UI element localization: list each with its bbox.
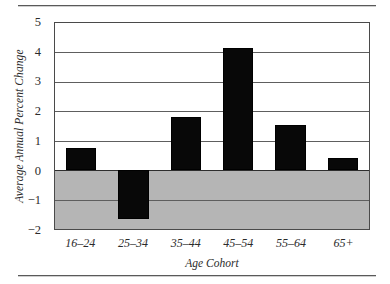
x-axis-title: Age Cohort (54, 257, 370, 269)
x-axis-tick-labels: 16–2425–3435–4445–5455–6465+ (54, 236, 370, 254)
x-tick-label: 25–34 (118, 236, 148, 251)
figure-rule-bottom (18, 275, 376, 276)
y-axis-tick-labels: 543210−1−2 (0, 22, 48, 230)
y-tick-label: 5 (35, 16, 41, 29)
bar-16-24 (66, 148, 96, 170)
x-tick-label: 55–64 (276, 236, 306, 251)
y-tick-label: 4 (35, 45, 41, 58)
y-tick-label: 1 (35, 135, 41, 148)
y-tick-label: 0 (35, 164, 41, 177)
plot-frame (54, 22, 370, 230)
y-tick-label: −2 (28, 224, 41, 237)
y-tick-label: −1 (28, 194, 41, 207)
bar-series (55, 23, 369, 229)
bar-35-44 (171, 117, 201, 170)
x-tick-label: 35–44 (171, 236, 201, 251)
x-tick-label: 65+ (334, 236, 354, 251)
bar-55-64 (275, 125, 305, 171)
bar-25-34 (118, 170, 148, 219)
bar-45-54 (223, 48, 253, 170)
figure-rule-top (18, 5, 376, 6)
figure-container: Average Annual Percent Change 543210−1−2… (0, 0, 390, 284)
y-tick-label: 2 (35, 105, 41, 118)
x-tick-label: 16–24 (65, 236, 95, 251)
x-tick-label: 45–54 (223, 236, 253, 251)
y-tick-label: 3 (35, 75, 41, 88)
plot-area (55, 23, 369, 229)
bar-65+ (328, 158, 358, 170)
